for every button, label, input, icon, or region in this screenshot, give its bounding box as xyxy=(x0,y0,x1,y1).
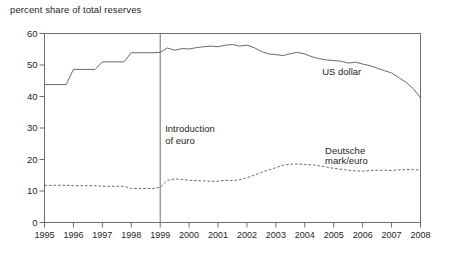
y-tick-marks xyxy=(40,34,45,223)
y-tick-label: 40 xyxy=(16,91,38,102)
series-line-deutsche-mark-euro xyxy=(45,164,421,189)
annotation-introduction-of-euro: Introduction of euro xyxy=(165,123,215,147)
plot-frame xyxy=(44,33,421,223)
x-tick-label: 2008 xyxy=(404,230,438,240)
y-tick-label: 50 xyxy=(16,59,38,70)
series-label-us-dollar: US dollar xyxy=(322,67,361,78)
y-tick-label: 60 xyxy=(16,28,38,39)
y-tick-label: 0 xyxy=(16,217,38,228)
y-tick-label: 20 xyxy=(16,154,38,165)
chart-container: percent share of total reserves 01020304… xyxy=(0,0,449,277)
y-tick-label: 30 xyxy=(16,122,38,133)
series-line-us-dollar xyxy=(45,45,421,98)
series-label-deutsche-mark-euro: Deutsche mark/euro xyxy=(325,146,368,167)
y-tick-label: 10 xyxy=(16,185,38,196)
x-tick-marks xyxy=(45,223,421,228)
